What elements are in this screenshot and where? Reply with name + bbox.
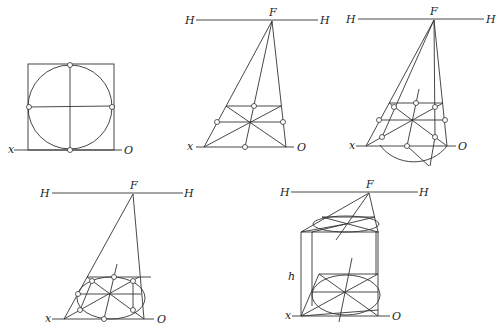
vanishing-line: [369, 193, 378, 232]
point-marker: [443, 118, 448, 123]
label-h: h: [288, 270, 295, 283]
point-marker: [281, 120, 286, 125]
vanishing-line: [434, 20, 435, 137]
vanishing-line: [434, 20, 447, 146]
label-x: x: [349, 139, 356, 152]
point-marker: [131, 308, 136, 313]
vanishing-line-left: [204, 21, 272, 147]
label-O: O: [392, 310, 401, 323]
label-H-left: H: [345, 13, 356, 26]
label-x: x: [45, 312, 52, 325]
perspective-circle-diagram: x O H H F x O H H F x O: [0, 0, 504, 336]
diagonal: [226, 106, 286, 147]
point-marker: [380, 135, 385, 140]
label-O: O: [157, 313, 166, 326]
label-H-left: H: [184, 14, 195, 27]
point-marker: [252, 104, 257, 109]
point-marker: [433, 135, 438, 140]
point-marker: [377, 118, 382, 123]
top-diagonal: [322, 217, 378, 232]
point-marker: [102, 317, 107, 322]
label-x: x: [285, 309, 292, 322]
point-marker: [68, 148, 73, 153]
point-marker: [78, 308, 83, 313]
label-F: F: [129, 179, 138, 192]
point-marker: [68, 63, 73, 68]
point-marker: [27, 105, 32, 110]
label-F: F: [365, 178, 374, 191]
point-marker: [76, 292, 81, 297]
point-marker: [112, 275, 117, 280]
vanishing-line-segment: [80, 281, 92, 310]
diagonal: [389, 103, 447, 146]
label-H-left: H: [39, 187, 50, 200]
label-F: F: [429, 5, 438, 18]
label-H-right: H: [319, 14, 330, 27]
vanishing-line: [133, 194, 144, 319]
bottom-side: [301, 274, 319, 316]
construction-line: [407, 146, 429, 166]
bottom-ellipse: [312, 275, 380, 315]
point-marker: [110, 105, 115, 110]
point-marker: [215, 120, 220, 125]
label-H-right: H: [183, 187, 194, 200]
label-O: O: [458, 140, 467, 153]
figure-4-perspective-ellipse: H H F x O: [39, 179, 194, 326]
point-marker: [414, 101, 419, 106]
vanishing-line-right: [272, 21, 286, 147]
figure-5-perspective-cylinder: H H F x O h: [279, 178, 429, 323]
point-marker: [392, 105, 397, 110]
label-F: F: [268, 6, 277, 19]
construction-line: [430, 137, 435, 166]
label-O: O: [124, 144, 133, 157]
figure-3-perspective-eight-points: H H F x O: [345, 5, 496, 166]
figure-1-circle-in-square: x O: [8, 63, 133, 158]
point-marker: [243, 145, 248, 150]
vanishing-line: [382, 20, 434, 137]
point-marker: [433, 105, 438, 110]
vanishing-line: [64, 194, 133, 319]
bottom-diagonal: [301, 274, 378, 316]
label-H-right: H: [418, 186, 429, 199]
horizontal-diameter: [28, 106, 112, 107]
label-O: O: [297, 141, 306, 154]
label-x: x: [187, 140, 194, 153]
figure-2-perspective-square: H H F x O: [184, 6, 330, 154]
label-H-right: H: [485, 13, 496, 26]
auxiliary-semicircle: [380, 145, 447, 162]
label-x: x: [8, 143, 15, 156]
point-marker: [90, 279, 95, 284]
perspective-ellipse: [77, 277, 145, 319]
label-H-left: H: [279, 186, 290, 199]
point-marker: [131, 279, 136, 284]
point-marker: [405, 144, 410, 149]
